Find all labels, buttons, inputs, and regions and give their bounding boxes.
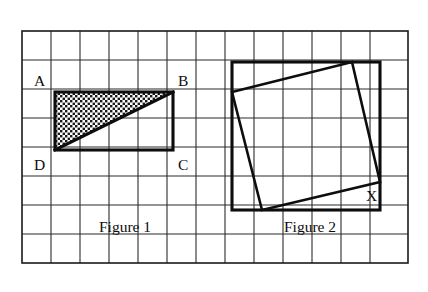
geometry-diagram-svg: A B C D Figure 1 X Figure 2 <box>0 0 428 292</box>
figure1-vertex-label-C: C <box>178 156 188 173</box>
figure2-vertex-label-X: X <box>366 187 377 204</box>
figure1-vertex-label-A: A <box>34 72 46 89</box>
figure1-caption: Figure 1 <box>99 218 151 235</box>
figure-panel: A B C D Figure 1 X Figure 2 <box>0 0 428 292</box>
grid-group <box>22 31 408 263</box>
figure1-vertex-label-B: B <box>178 72 188 89</box>
figure1-group: A B C D Figure 1 <box>34 72 188 235</box>
figure2-caption: Figure 2 <box>284 218 336 235</box>
figure1-vertex-label-D: D <box>34 156 45 173</box>
